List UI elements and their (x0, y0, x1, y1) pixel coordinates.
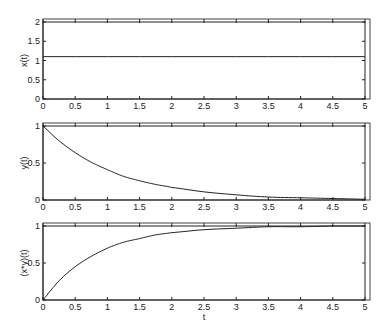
x-tick-label: 1 (105, 302, 110, 312)
x-tick-label: 3 (234, 101, 239, 111)
x-tick-label: 4 (298, 202, 303, 212)
x-tick-label: 3 (234, 302, 239, 312)
x-tick-label: 4.5 (327, 302, 340, 312)
x-tick-label: 1.5 (133, 101, 146, 111)
x-tick-label: 0.5 (69, 202, 82, 212)
x-tick-label: 1 (105, 101, 110, 111)
y-axis-label: x(t) (19, 54, 29, 67)
x-tick-label: 2.5 (198, 101, 211, 111)
x-tick-label: 2 (169, 101, 174, 111)
y-tick-label: 0.5 (27, 75, 40, 85)
series-line (43, 226, 365, 300)
y-tick-label: 1 (35, 121, 40, 131)
y-axis-label: y(t) (19, 157, 29, 170)
x-tick-label: 0.5 (69, 302, 82, 312)
x-tick-label: 4.5 (327, 202, 340, 212)
x-tick-label: 1.5 (133, 302, 146, 312)
x-tick-label: 0.5 (69, 101, 82, 111)
x-tick-label: 4.5 (327, 101, 340, 111)
x-tick-label: 3.5 (262, 302, 275, 312)
panel-xy: 00.511.522.533.544.5500.51(x*y)(t)t (19, 221, 370, 322)
plot-axes-box (43, 126, 365, 200)
plot-frame-outer (43, 123, 370, 200)
y-axis-label: (x*y)(t) (19, 250, 29, 277)
y-tick-label: 1 (35, 221, 40, 231)
plot-axes-box (43, 22, 365, 99)
series-line (43, 126, 365, 199)
y-tick-label: 0.5 (27, 158, 40, 168)
x-tick-label: 1 (105, 202, 110, 212)
x-tick-label: 2.5 (198, 302, 211, 312)
x-tick-label: 0 (40, 202, 45, 212)
y-tick-label: 0.5 (27, 258, 40, 268)
x-tick-label: 5 (362, 202, 367, 212)
x-tick-label: 2.5 (198, 202, 211, 212)
panel-x: 00.511.522.533.544.5500.511.52x(t) (19, 17, 370, 111)
x-tick-label: 3 (234, 202, 239, 212)
plot-frame-outer (43, 19, 370, 99)
x-tick-label: 1.5 (133, 202, 146, 212)
x-tick-label: 0 (40, 302, 45, 312)
y-tick-label: 0 (35, 94, 40, 104)
plot-frame-outer (43, 223, 370, 300)
y-tick-label: 0 (35, 295, 40, 305)
x-tick-label: 3.5 (262, 202, 275, 212)
x-tick-label: 5 (362, 302, 367, 312)
y-tick-label: 1 (35, 56, 40, 66)
x-tick-label: 5 (362, 101, 367, 111)
x-tick-label: 4 (298, 302, 303, 312)
x-tick-label: 3.5 (262, 101, 275, 111)
figure: 00.511.522.533.544.5500.511.52x(t) 00.51… (0, 0, 392, 333)
x-axis-label: t (203, 312, 206, 322)
x-tick-label: 2 (169, 302, 174, 312)
y-tick-label: 0 (35, 195, 40, 205)
plot-axes-box (43, 226, 365, 300)
x-tick-label: 2 (169, 202, 174, 212)
y-tick-label: 1.5 (27, 36, 40, 46)
x-tick-label: 4 (298, 101, 303, 111)
y-tick-label: 2 (35, 17, 40, 27)
x-tick-label: 0 (40, 101, 45, 111)
panel-y: 00.511.522.533.544.5500.51y(t) (19, 121, 370, 212)
